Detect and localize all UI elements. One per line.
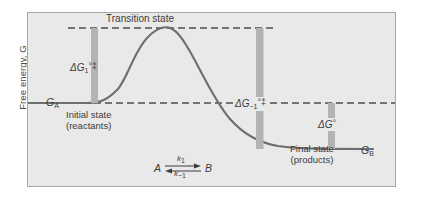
g-a-label: GA — [46, 96, 59, 110]
delta-g-forward-symbol: ΔG — [70, 62, 85, 73]
g-a-symbol: G — [46, 96, 54, 108]
delta-g-standard-label: ΔG° — [317, 118, 337, 131]
rate-constant-forward: k1 — [177, 154, 185, 165]
reactant-label: A — [154, 162, 161, 174]
delta-g-reverse-symbol: ΔG — [235, 98, 250, 109]
g-b-label: GB — [361, 144, 374, 158]
delta-g-standard-symbol: ΔG — [318, 119, 333, 130]
equilibrium-arrows-icon: k1 k−1 — [164, 158, 202, 178]
initial-state-label: Initial state (reactants) — [66, 110, 111, 132]
final-state-label: Final state (products) — [290, 144, 334, 166]
g-a-subscript: A — [54, 102, 59, 109]
plot-area: Transition state GA GB Initial state (re… — [27, 12, 396, 187]
initial-state-line2: (reactants) — [66, 121, 111, 132]
g-b-subscript: B — [369, 150, 374, 157]
delta-g-reverse-superscript: °‡ — [257, 97, 266, 107]
delta-g-standard-superscript: ° — [333, 118, 337, 128]
energy-diagram-figure: Free energy, G Transition state GA GB I — [0, 0, 426, 209]
delta-g-forward-superscript: °‡ — [88, 61, 97, 71]
bar-delta-g-reverse — [256, 28, 264, 149]
g-b-symbol: G — [361, 144, 369, 156]
delta-g-forward-label: ΔG1°‡ — [70, 61, 97, 75]
rate-constant-reverse: k−1 — [174, 169, 186, 180]
reaction-equation: A k1 k−1 B — [154, 158, 212, 178]
transition-state-label: Transition state — [106, 13, 174, 25]
final-state-line2: (products) — [290, 155, 334, 166]
delta-g-reverse-label: ΔG−1°‡ — [234, 97, 267, 111]
product-label: B — [205, 162, 212, 174]
y-axis-label: Free energy, G — [17, 18, 28, 138]
